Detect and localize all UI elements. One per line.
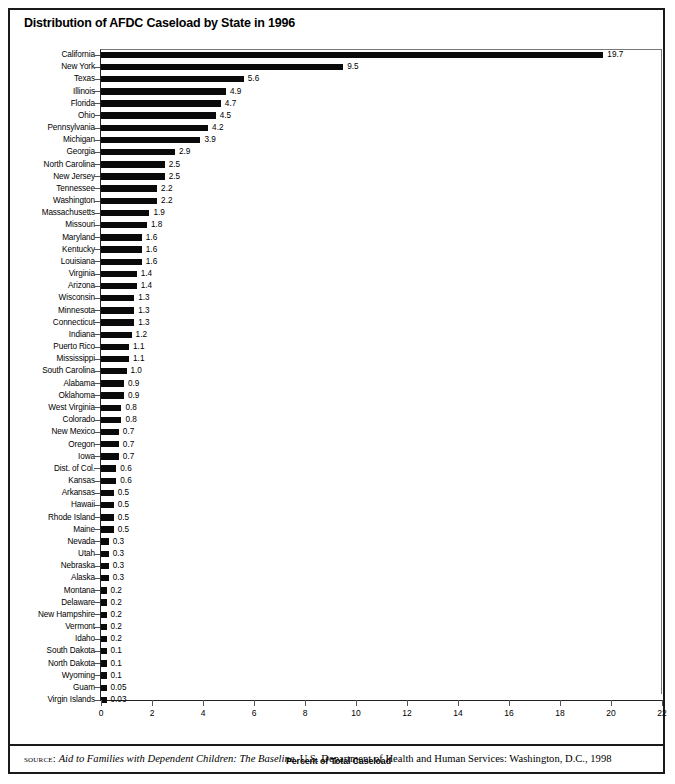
y-axis-tick — [94, 432, 100, 433]
x-axis-tick-label: 8 — [303, 708, 308, 718]
bar-row: Idaho0.2 — [10, 633, 667, 645]
y-axis-tick — [94, 188, 100, 189]
bar-value-label: 0.2 — [111, 609, 122, 621]
bar-row: Puerto Rico1.1 — [10, 341, 667, 353]
x-axis-tick-label: 0 — [99, 708, 104, 718]
bar-row: Virginia1.4 — [10, 268, 667, 280]
page-title: Distribution of AFDC Caseload by State i… — [24, 16, 663, 30]
bar-row: North Dakota0.1 — [10, 658, 667, 670]
x-axis-tick — [152, 700, 153, 706]
bar-value-label: 0.2 — [111, 633, 122, 645]
bar-row: Mississippi1.1 — [10, 353, 667, 365]
bar-row: North Carolina2.5 — [10, 159, 667, 171]
bar-row: Texas5.6 — [10, 73, 667, 85]
bar-value-label: 0.8 — [125, 402, 136, 414]
bar-value-label: 0.05 — [111, 682, 127, 694]
y-axis-tick — [94, 566, 100, 567]
x-axis-tick — [560, 700, 561, 706]
category-label: Kansas — [0, 475, 95, 487]
bar — [101, 526, 114, 532]
x-axis-tick-label: 14 — [453, 708, 462, 718]
bar-row: South Carolina1.0 — [10, 365, 667, 377]
bar — [101, 624, 107, 630]
y-axis-tick — [94, 274, 100, 275]
y-axis-tick — [94, 627, 100, 628]
bar-row: New Mexico0.7 — [10, 426, 667, 438]
bar-value-label: 4.9 — [230, 86, 241, 98]
y-axis-tick — [94, 140, 100, 141]
category-label: Guam — [0, 682, 95, 694]
bar-value-label: 0.3 — [113, 572, 124, 584]
bar-value-label: 4.7 — [225, 98, 236, 110]
bar — [101, 88, 226, 94]
bar-value-label: 0.7 — [123, 451, 134, 463]
y-axis-tick — [94, 322, 100, 323]
y-axis-tick — [94, 456, 100, 457]
bar — [101, 429, 119, 435]
bar — [101, 380, 124, 386]
category-label: Louisiana — [0, 256, 95, 268]
bar-value-label: 0.6 — [120, 475, 131, 487]
figure-panel: Distribution of AFDC Caseload by State i… — [8, 8, 665, 774]
bar-value-label: 0.3 — [113, 548, 124, 560]
x-axis-tick — [101, 700, 102, 706]
x-axis-tick — [662, 700, 663, 706]
y-axis-tick — [94, 91, 100, 92]
bar — [101, 52, 603, 58]
category-label: Iowa — [0, 451, 95, 463]
y-axis-tick — [94, 383, 100, 384]
x-axis-tick — [611, 700, 612, 706]
bar — [101, 478, 116, 484]
bar-row: Montana0.2 — [10, 585, 667, 597]
bar — [101, 100, 221, 106]
category-label: New Jersey — [0, 171, 95, 183]
category-label: Alabama — [0, 378, 95, 390]
y-axis-tick — [94, 359, 100, 360]
x-axis-ticks: 0246810121416182022 — [10, 700, 667, 730]
bar-row: Washington2.2 — [10, 195, 667, 207]
x-axis-tick-label: 22 — [657, 708, 666, 718]
bar — [101, 356, 129, 362]
bar-row: Kentucky1.6 — [10, 244, 667, 256]
y-axis-tick — [94, 261, 100, 262]
source-kicker: source: — [24, 753, 56, 764]
bar-value-label: 1.3 — [138, 317, 149, 329]
bar — [101, 538, 109, 544]
bar-value-label: 2.2 — [161, 183, 172, 195]
bar-row: Pennsylvania4.2 — [10, 122, 667, 134]
bar-value-label: 0.8 — [125, 414, 136, 426]
y-axis-tick — [94, 687, 100, 688]
bar-value-label: 4.2 — [212, 122, 223, 134]
bar — [101, 332, 132, 338]
bar-row: Wisconsin1.3 — [10, 292, 667, 304]
y-axis-tick — [94, 517, 100, 518]
bar-row: Utah0.3 — [10, 548, 667, 560]
bar-value-label: 1.3 — [138, 292, 149, 304]
category-label: Arizona — [0, 280, 95, 292]
bar — [101, 246, 142, 252]
bar-value-label: 0.1 — [111, 670, 122, 682]
bar-row: Georgia2.9 — [10, 146, 667, 158]
bar-value-label: 0.5 — [118, 512, 129, 524]
bar-row: Nevada0.3 — [10, 536, 667, 548]
category-label: Washington — [0, 195, 95, 207]
bar-value-label: 2.5 — [169, 171, 180, 183]
bar — [101, 295, 134, 301]
bar-value-label: 1.3 — [138, 305, 149, 317]
category-label: West Virginia — [0, 402, 95, 414]
y-axis-tick — [94, 590, 100, 591]
bar-rows: California19.7New York9.5Texas5.6Illinoi… — [10, 49, 667, 706]
bar — [101, 587, 107, 593]
y-axis-tick — [94, 103, 100, 104]
bar-value-label: 0.6 — [120, 463, 131, 475]
bar-row: Vermont0.2 — [10, 621, 667, 633]
bar — [101, 283, 137, 289]
y-axis-tick — [94, 529, 100, 530]
x-axis-tick — [254, 700, 255, 706]
category-label: Pennsylvania — [0, 122, 95, 134]
x-axis-tick-label: 6 — [252, 708, 257, 718]
x-axis-tick — [509, 700, 510, 706]
bar-value-label: 0.9 — [128, 378, 139, 390]
bar-row: New Jersey2.5 — [10, 171, 667, 183]
bar-row: Wyoming0.1 — [10, 670, 667, 682]
